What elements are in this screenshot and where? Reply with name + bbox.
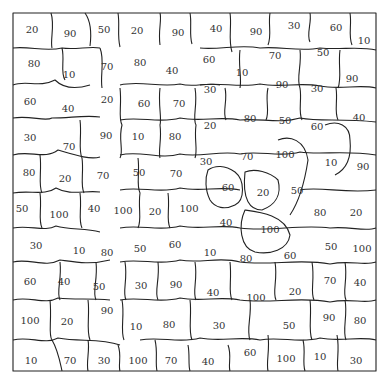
region-value-label: 30 xyxy=(311,83,324,94)
region-value-label: 40 xyxy=(353,112,366,123)
region-border xyxy=(51,13,53,48)
region-border xyxy=(13,150,100,158)
region-border xyxy=(300,189,376,191)
region-border xyxy=(195,262,196,300)
region-value-label: 30 xyxy=(24,132,37,143)
region-border xyxy=(312,262,314,300)
region-value-label: 80 xyxy=(134,57,147,68)
region-value-label: 20 xyxy=(204,120,217,131)
region-border xyxy=(140,338,376,340)
region-value-label: 90 xyxy=(100,130,113,141)
region-border xyxy=(225,88,226,120)
region-value-label: 40 xyxy=(202,356,215,367)
region-value-label: 60 xyxy=(244,347,257,358)
region-border xyxy=(345,300,346,340)
region-border xyxy=(13,188,100,193)
region-value-label: 30 xyxy=(135,280,148,291)
region-value-label: 40 xyxy=(210,23,223,34)
region-border xyxy=(13,80,90,87)
region-value-label: 70 xyxy=(241,151,254,162)
region-border xyxy=(228,345,230,371)
region-border xyxy=(338,50,340,88)
region-value-label: 60 xyxy=(222,182,235,193)
region-value-label: 20 xyxy=(131,25,144,36)
region-value-label: 20 xyxy=(149,206,162,217)
region-value-label: 50 xyxy=(16,203,29,214)
region-border xyxy=(299,50,301,88)
region-value-label: 100 xyxy=(179,203,198,214)
region-value-label: 10 xyxy=(132,131,145,142)
region-border xyxy=(266,88,268,120)
region-value-label: 100 xyxy=(246,292,265,303)
region-value-label: 60 xyxy=(330,22,343,33)
region-value-label: 40 xyxy=(58,276,71,287)
region-value-label: 10 xyxy=(130,321,143,332)
region-border xyxy=(310,300,312,340)
region-value-label: 100 xyxy=(113,205,132,216)
region-value-label: 20 xyxy=(101,94,114,105)
region-border xyxy=(13,47,100,49)
region-border xyxy=(155,340,157,371)
region-border xyxy=(120,226,376,229)
region-value-label: 90 xyxy=(172,27,185,38)
region-value-label: 100 xyxy=(128,355,147,366)
region-value-label: 80 xyxy=(354,315,367,326)
region-border xyxy=(190,13,192,44)
region-value-label: 40 xyxy=(62,103,75,114)
region-border xyxy=(13,260,110,263)
region-border xyxy=(350,13,352,45)
region-value-label: 50 xyxy=(98,24,111,35)
region-border xyxy=(80,193,82,228)
region-value-label: 50 xyxy=(283,320,296,331)
region-value-label: 60 xyxy=(138,98,151,109)
region-value-label: 100 xyxy=(275,149,294,160)
region-border xyxy=(275,262,276,300)
region-value-label: 80 xyxy=(169,131,182,142)
region-value-label: 80 xyxy=(101,247,114,258)
region-border xyxy=(200,47,376,50)
region-border xyxy=(159,88,160,158)
region-value-label: 70 xyxy=(64,355,77,366)
region-value-label: 100 xyxy=(276,353,295,364)
region-value-label: 80 xyxy=(244,113,257,124)
region-value-label: 100 xyxy=(260,224,279,235)
region-value-label: 20 xyxy=(289,286,302,297)
region-value-label: 70 xyxy=(324,275,337,286)
region-value-label: 40 xyxy=(220,217,233,228)
region-border xyxy=(50,300,62,371)
region-value-label: 50 xyxy=(93,281,106,292)
region-value-label: 80 xyxy=(28,58,41,69)
region-value-label: 10 xyxy=(73,245,86,256)
region-border xyxy=(195,88,197,158)
region-border xyxy=(40,193,42,228)
region-value-label: 70 xyxy=(101,61,114,72)
region-value-label: 90 xyxy=(170,279,183,290)
region-border xyxy=(82,158,84,193)
region-value-label: 30 xyxy=(200,156,213,167)
region-value-label: 80 xyxy=(240,253,253,264)
region-value-label: 10 xyxy=(204,247,217,258)
region-border xyxy=(249,300,251,340)
region-value-label: 90 xyxy=(276,79,289,90)
region-border xyxy=(303,340,305,371)
region-value-label: 10 xyxy=(325,157,338,168)
region-value-label: 20 xyxy=(26,24,39,35)
region-border xyxy=(120,88,122,158)
region-value-label: 50 xyxy=(133,167,146,178)
region-value-label: 100 xyxy=(20,315,39,326)
region-value-label: 50 xyxy=(325,241,338,252)
region-value-label: 30 xyxy=(288,20,301,31)
region-value-label: 20 xyxy=(59,173,72,184)
region-value-label: 70 xyxy=(97,170,110,181)
region-border xyxy=(13,116,100,119)
region-border xyxy=(125,262,126,300)
region-border xyxy=(118,13,120,47)
region-value-label: 20 xyxy=(61,316,74,327)
region-value-label: 70 xyxy=(63,141,76,152)
region-value-label: 40 xyxy=(88,203,101,214)
region-border xyxy=(345,262,346,300)
region-value-label: 70 xyxy=(173,98,186,109)
region-value-label: 40 xyxy=(354,277,367,288)
region-value-label: 70 xyxy=(170,168,183,179)
region-value-label: 10 xyxy=(314,351,327,362)
